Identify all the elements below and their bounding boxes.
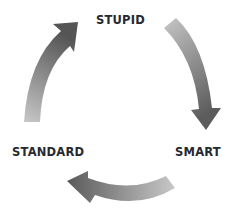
arrow-stupid-to-smart-icon — [164, 18, 221, 130]
arrow-standard-to-stupid-icon — [24, 22, 78, 122]
arrows-layer — [0, 0, 246, 223]
node-standard-label: STANDARD — [12, 145, 84, 159]
node-stupid-label: STUPID — [96, 13, 145, 27]
node-smart-label: SMART — [175, 145, 221, 159]
arrow-smart-to-standard-icon — [67, 171, 175, 203]
cycle-diagram: STUPID SMART STANDARD — [0, 0, 246, 223]
